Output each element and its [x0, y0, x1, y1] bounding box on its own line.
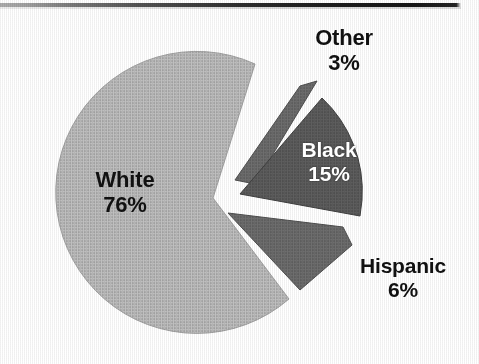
pie-label-hispanic-percent: 6% — [330, 278, 476, 302]
pie-label-white-percent: 76% — [60, 193, 190, 218]
pie-label-other-percent: 3% — [286, 51, 402, 76]
pie-chart-figure: White 76% Black 15% Other 3% Hispanic 6% — [0, 0, 479, 364]
pie-label-white: White 76% — [60, 168, 190, 217]
pie-label-hispanic-name: Hispanic — [330, 254, 476, 278]
pie-label-white-name: White — [60, 168, 190, 193]
pie-label-other-name: Other — [286, 26, 402, 51]
pie-label-black-percent: 15% — [277, 162, 381, 186]
pie-label-black-name: Black — [277, 138, 381, 162]
pie-label-other: Other 3% — [286, 26, 402, 75]
pie-label-hispanic: Hispanic 6% — [330, 254, 476, 301]
pie-label-black: Black 15% — [277, 138, 381, 185]
